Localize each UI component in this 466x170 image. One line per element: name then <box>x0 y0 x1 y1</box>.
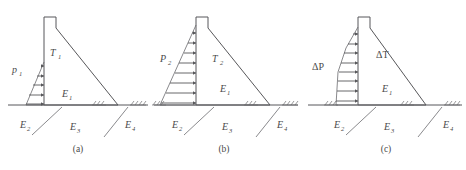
label-e2-sub: 2 <box>27 125 31 132</box>
label-e2: E <box>171 119 178 130</box>
label-e1: E <box>61 88 68 99</box>
label-e4: E <box>442 119 449 130</box>
label-e1-sub: 1 <box>227 89 230 96</box>
pressure-diagram <box>336 27 358 105</box>
label-e1-sub: 1 <box>69 94 72 101</box>
label-e3: E <box>221 121 228 132</box>
support-hatching-right <box>244 101 258 105</box>
label-e3-sub: 3 <box>76 127 81 134</box>
label-e4-sub: 4 <box>450 125 454 132</box>
label-e2-sub: 2 <box>179 125 183 132</box>
label-pressure-sub: 2 <box>168 59 172 66</box>
label-e3-sub: 3 <box>228 127 233 134</box>
support-hatching-far-right <box>282 101 298 105</box>
label-thrust: T <box>50 47 57 58</box>
panel-c: ΔP ΔT E 1 E 2 E 3 E 4 (c) <box>306 0 466 170</box>
label-pressure-sub: 1 <box>19 70 22 77</box>
panel-caption-a: (a) <box>0 144 156 154</box>
leader-line-e3 <box>418 107 442 137</box>
label-e2: E <box>19 119 26 130</box>
leader-line-e2 <box>32 107 62 135</box>
label-e3: E <box>383 121 390 132</box>
label-e1: E <box>381 83 388 94</box>
label-e4-sub: 4 <box>284 125 288 132</box>
panel-caption-c: (c) <box>306 144 466 154</box>
panel-b: P 2 T 2 E 1 E 2 E 3 E 4 (b) <box>146 0 302 170</box>
label-pressure: p <box>11 64 17 75</box>
support-hatching-far-right <box>130 101 146 105</box>
label-e1-sub: 1 <box>389 89 392 96</box>
label-pressure: ΔP <box>312 61 324 72</box>
label-e2-sub: 2 <box>341 125 345 132</box>
pressure-arrows <box>161 31 196 105</box>
label-e3: E <box>69 121 76 132</box>
label-e4-sub: 4 <box>132 125 136 132</box>
leader-line-e2 <box>346 107 376 135</box>
label-pressure: P <box>159 53 166 64</box>
label-thrust-sub: 1 <box>58 53 61 60</box>
label-e1: E <box>219 83 226 94</box>
dam-body <box>44 17 118 105</box>
label-e2: E <box>333 119 340 130</box>
label-e4: E <box>124 119 131 130</box>
support-hatching-right <box>400 101 414 105</box>
label-thrust: T <box>212 53 219 64</box>
label-e4: E <box>276 119 283 130</box>
label-thrust: ΔT <box>376 49 389 60</box>
support-hatching-right <box>92 101 106 105</box>
leader-line-e2 <box>184 107 214 135</box>
figure-container: p 1 T 1 E 1 E 2 E 3 E 4 (a) <box>0 0 466 170</box>
dam-body <box>196 17 270 105</box>
panel-a: p 1 T 1 E 1 E 2 E 3 E 4 (a) <box>0 0 156 170</box>
support-hatching-far-right <box>444 101 460 105</box>
label-thrust-sub: 2 <box>220 59 224 66</box>
panel-caption-b: (b) <box>146 144 302 154</box>
label-e3-sub: 3 <box>390 127 395 134</box>
